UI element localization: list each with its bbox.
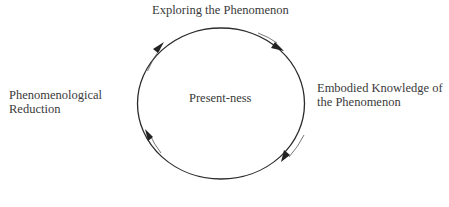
node-label-bottom-cutoff: ... bbox=[186, 199, 195, 207]
node-label-line: Exploring the Phenomenon bbox=[152, 3, 289, 17]
node-label-line: ... bbox=[186, 199, 195, 207]
arrowhead-icon bbox=[281, 150, 290, 162]
node-label-exploring: Exploring the Phenomenon bbox=[152, 3, 289, 17]
arrow-top-to-right bbox=[258, 33, 284, 51]
arrow-bottom-to-left bbox=[145, 129, 161, 153]
arrowhead-icon bbox=[271, 42, 284, 51]
node-label-line: Phenomenological bbox=[9, 88, 102, 102]
node-label-line: the Phenomenon bbox=[317, 95, 443, 109]
arrow-right-to-bottom bbox=[281, 135, 304, 162]
node-label-phenomenological-reduction: Phenomenological Reduction bbox=[9, 88, 102, 116]
node-label-line: Reduction bbox=[9, 102, 102, 116]
center-label-present-ness: Present-ness bbox=[189, 91, 252, 105]
node-label-embodied-knowledge: Embodied Knowledge of the Phenomenon bbox=[317, 81, 443, 109]
node-label-line: Embodied Knowledge of bbox=[317, 81, 443, 95]
arrowhead-icon bbox=[153, 42, 164, 53]
